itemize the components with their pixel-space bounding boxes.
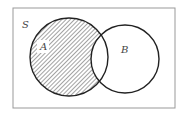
set-a-label: A [39,41,47,52]
venn-diagram: S A B [0,0,184,118]
set-b-label: B [120,44,128,55]
universe-label: S [22,19,29,30]
